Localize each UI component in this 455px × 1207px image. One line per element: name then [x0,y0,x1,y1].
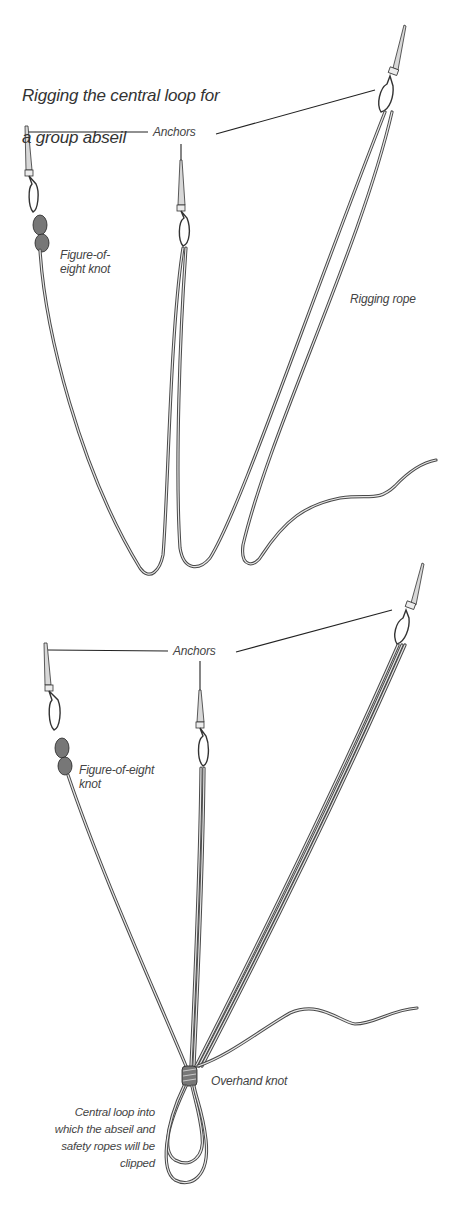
figure-of-eight-knot-icon-bottom [55,738,72,775]
rigging-rope-label: Rigging rope [350,292,416,306]
figure-of-eight-label-bottom: Figure-of-eight knot [79,763,154,791]
rigging-diagram: Rigging the central loop for a group abs… [0,0,455,1207]
anchors-leader-left-bottom [48,650,168,651]
overhand-knot-label: Overhand knot [211,1074,287,1088]
right-anchor-icon [379,25,406,112]
anchors-leader-right-bottom [236,610,392,652]
anchors-label-top: Anchors [153,125,196,139]
bottom-panel [44,563,424,1183]
anchors-leader-right [216,90,375,134]
title-line-2: a group abseil [22,128,126,147]
figure-of-eight-label-top: Figure-of- eight knot [60,248,110,276]
central-loop-label: Central loop into which the abseil and s… [20,1104,155,1172]
center-anchor-icon [177,160,189,246]
right-anchor-icon-bottom [395,563,424,644]
title-line-1: Rigging the central loop for [22,86,220,105]
central-loop-icon [166,1086,206,1183]
rigging-rope-bottom [68,645,417,1066]
left-anchor-icon-bottom [44,643,60,730]
anchors-label-bottom: Anchors [173,644,216,658]
overhand-knot-icon [182,1066,197,1086]
rigging-rope-top [40,112,436,574]
figure-of-eight-knot-icon [33,215,49,252]
diagram-canvas [0,0,455,1207]
center-anchor-icon-bottom [196,690,208,766]
